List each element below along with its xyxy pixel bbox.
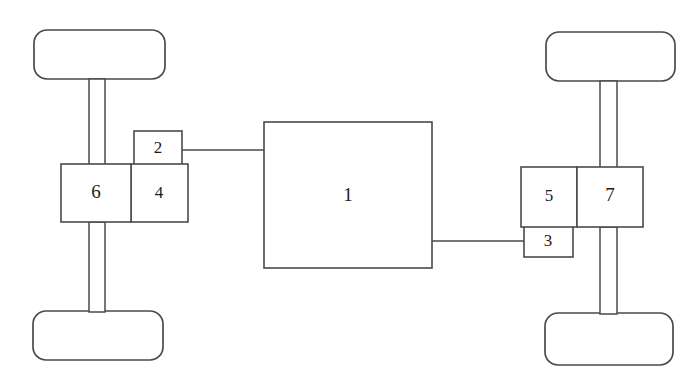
part-label-left-inner-gearbox: 4	[155, 183, 164, 202]
part-label-left-upper-coupling: 2	[154, 138, 163, 157]
part-label-right-outer-gearbox: 7	[605, 184, 615, 205]
part-label-right-inner-gearbox: 5	[545, 186, 554, 205]
axle-front-right	[600, 81, 617, 168]
wheel-front-left	[34, 30, 165, 79]
wheel-front-right	[546, 32, 675, 81]
axle-front-left	[89, 79, 105, 165]
diagram-canvas: 1234567	[0, 0, 698, 387]
axle-rear-right	[600, 227, 617, 314]
part-label-central-unit: 1	[343, 184, 353, 205]
wheel-rear-right	[545, 313, 673, 365]
drivetrain-diagram: 1234567	[0, 0, 698, 387]
wheel-rear-left	[33, 311, 163, 360]
part-label-right-lower-coupling: 3	[544, 231, 553, 250]
axle-rear-left	[89, 222, 105, 312]
part-label-left-outer-gearbox: 6	[91, 181, 101, 202]
